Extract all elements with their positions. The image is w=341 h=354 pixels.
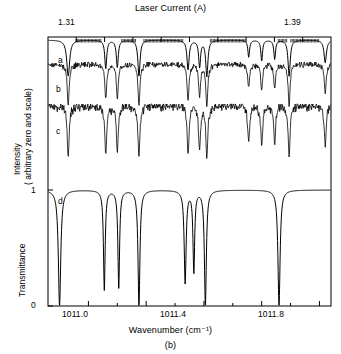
- axis-ticks: [48, 37, 319, 306]
- trace-a: [48, 40, 331, 77]
- trace-d: [48, 190, 331, 306]
- spectroscopy-figure: Laser Current (A) 1.31 1.39 1011.0 1011.…: [0, 0, 341, 354]
- trace-c: [48, 104, 331, 159]
- plot-canvas: [0, 0, 341, 354]
- spectrum-traces: [48, 40, 331, 306]
